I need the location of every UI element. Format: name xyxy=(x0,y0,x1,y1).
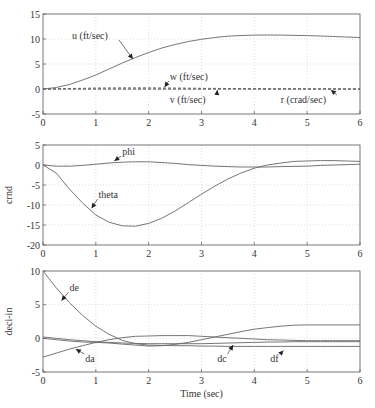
x-tick-label: 5 xyxy=(305,117,310,128)
annotation: da xyxy=(76,349,96,364)
annotation: r (crad/sec) xyxy=(281,90,337,106)
y-tick-label: 5 xyxy=(35,59,40,70)
arrow-icon xyxy=(114,156,120,161)
y-tick-label: 5 xyxy=(35,299,40,310)
y-tick-label: 0 xyxy=(35,84,40,95)
figure: 0123456-5051015u (ft/sec)w (ft/sec)v (ft… xyxy=(0,0,375,408)
annotation-label: theta xyxy=(98,189,118,200)
x-tick-label: 1 xyxy=(93,248,98,259)
x-tick-label: 1 xyxy=(93,117,98,128)
x-tick-label: 6 xyxy=(358,248,363,259)
annotation: theta xyxy=(92,189,119,208)
x-tick-label: 3 xyxy=(199,248,204,259)
y-tick-label: -20 xyxy=(27,240,40,251)
grid xyxy=(43,145,360,245)
annotation: w (ft/sec) xyxy=(165,71,208,87)
arrow-icon xyxy=(92,203,97,209)
subplot-2: 0123456-20-15-10-505crndphitheta xyxy=(3,140,363,260)
arrow-icon xyxy=(128,53,133,59)
x-tick-label: 3 xyxy=(199,117,204,128)
x-tick-label: 3 xyxy=(199,375,204,386)
x-tick-label: 4 xyxy=(252,248,257,259)
annotation-label: df xyxy=(270,353,279,364)
arrow-icon xyxy=(331,90,336,95)
annotation-label: dc xyxy=(217,353,227,364)
annotation: df xyxy=(270,350,283,363)
x-tick-label: 0 xyxy=(41,248,46,259)
annotation: phi xyxy=(114,146,135,161)
annotation: v (ft/sec) xyxy=(170,90,219,106)
annotation-label: w (ft/sec) xyxy=(170,71,208,83)
arrow-icon xyxy=(228,345,233,351)
x-tick-label: 2 xyxy=(146,375,151,386)
y-tick-label: -10 xyxy=(27,200,40,211)
subplot-3: 0123456-50510deci-inTime (sec)dedadcdf xyxy=(3,266,363,401)
x-tick-label: 0 xyxy=(41,375,46,386)
series-de xyxy=(43,271,360,346)
y-tick-label: 10 xyxy=(30,266,40,277)
x-tick-label: 2 xyxy=(146,117,151,128)
y-tick-label: 15 xyxy=(30,9,40,20)
subplot-1: 0123456-5051015u (ft/sec)w (ft/sec)v (ft… xyxy=(30,9,363,129)
y-axis-label: deci-in xyxy=(3,308,14,336)
chart-svg: 0123456-5051015u (ft/sec)w (ft/sec)v (ft… xyxy=(0,0,375,408)
y-tick-label: -5 xyxy=(32,367,40,378)
y-tick-label: 10 xyxy=(30,34,40,45)
y-tick-label: 0 xyxy=(35,333,40,344)
y-tick-label: 0 xyxy=(35,160,40,171)
y-tick-label: -5 xyxy=(32,109,40,120)
annotation-label: phi xyxy=(122,146,135,157)
y-tick-label: 5 xyxy=(35,140,40,151)
x-tick-label: 1 xyxy=(93,375,98,386)
annotation-label: v (ft/sec) xyxy=(170,94,206,106)
y-axis-label: crnd xyxy=(3,186,14,204)
arrow-icon xyxy=(278,350,283,355)
x-tick-label: 5 xyxy=(305,248,310,259)
x-tick-label: 6 xyxy=(358,375,363,386)
arrow-icon xyxy=(214,90,219,95)
y-tick-label: -15 xyxy=(27,220,40,231)
x-tick-label: 4 xyxy=(252,117,257,128)
x-axis-label: Time (sec) xyxy=(180,388,223,400)
arrow-icon xyxy=(165,81,170,87)
x-tick-label: 6 xyxy=(358,117,363,128)
y-tick-label: -5 xyxy=(32,180,40,191)
x-tick-label: 5 xyxy=(305,375,310,386)
x-tick-label: 4 xyxy=(252,375,257,386)
x-tick-label: 2 xyxy=(146,248,151,259)
annotation-label: r (crad/sec) xyxy=(281,94,326,106)
annotation: dc xyxy=(217,345,233,364)
annotation: de xyxy=(61,282,79,300)
annotation-label: da xyxy=(85,353,95,364)
annotation-label: u (ft/sec) xyxy=(72,30,108,42)
annotation: u (ft/sec) xyxy=(72,30,133,59)
x-tick-label: 0 xyxy=(41,117,46,128)
annotation-label: de xyxy=(69,282,79,293)
